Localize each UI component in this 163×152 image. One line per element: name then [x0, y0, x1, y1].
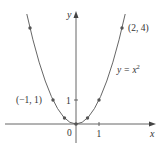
- point-label-neg1-1: (−1, 1): [16, 95, 42, 106]
- x-axis-arrow-icon: [149, 122, 156, 127]
- point-2-4: [120, 26, 123, 29]
- parabola-figure: y x 0 1 1 (2, 4) (−1, 1) y = x2: [0, 0, 163, 152]
- x-tick-label: 1: [97, 129, 102, 139]
- y-axis-arrow-icon: [74, 11, 79, 18]
- point-neg-half: [63, 116, 66, 119]
- point-neg2-4: [28, 26, 31, 29]
- curve-equation-base: y = x: [116, 65, 137, 75]
- curve-equation-exponent: 2: [137, 63, 140, 70]
- origin-label: 0: [67, 128, 72, 138]
- y-tick-label: 1: [66, 96, 71, 106]
- y-axis-label: y: [66, 9, 72, 20]
- point-neg1-1: [51, 98, 54, 101]
- x-axis: [5, 122, 156, 127]
- curve-equation-label: y = x2: [116, 63, 140, 75]
- x-axis-label: x: [149, 128, 155, 139]
- point-pos-half: [86, 116, 89, 119]
- point-1-1: [97, 98, 100, 101]
- point-label-2-4: (2, 4): [128, 23, 149, 34]
- point-origin: [74, 122, 78, 126]
